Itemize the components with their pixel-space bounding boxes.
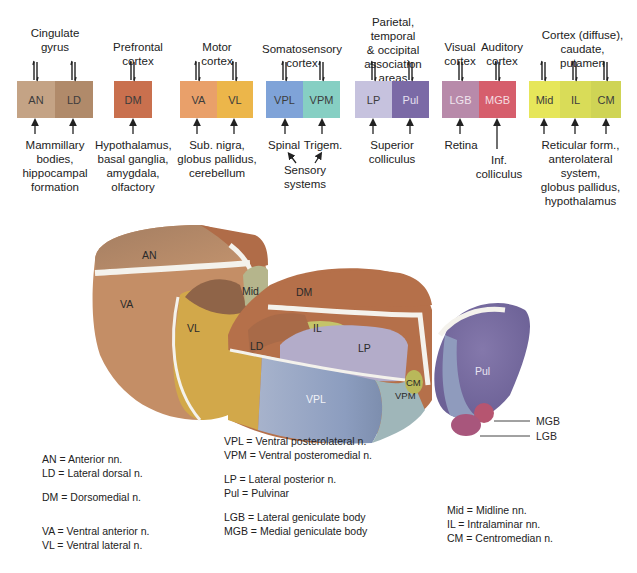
connection-arrows (0, 0, 637, 210)
label-dm: DM (296, 286, 312, 298)
legend-entry: MGB = Medial geniculate body (224, 524, 372, 538)
label-vpm: VPM (395, 390, 416, 401)
label-vl: VL (187, 322, 200, 334)
label-va: VA (120, 298, 133, 310)
thalamus-illustration: AN VA VL Mid DM IL LD LP VPL VPM CM Pul … (0, 215, 637, 445)
region-vl-posterior (228, 350, 262, 430)
bidirectional-arrow-icon (130, 61, 135, 81)
legend-entry: VPM = Ventral posteromedial n. (224, 448, 372, 462)
bidirectional-arrow-icon (572, 61, 577, 81)
label-il: IL (313, 322, 322, 334)
bidirectional-arrow-icon (603, 61, 608, 81)
label-an: AN (142, 249, 157, 261)
legend-column-1: AN = Anterior nn. LD = Lateral dorsal n.… (42, 452, 150, 552)
bidirectional-arrow-icons (33, 61, 608, 81)
bidirectional-arrow-icon (71, 61, 76, 81)
legend-entry: VPL = Ventral posterolateral n. (224, 434, 372, 448)
legend-entry: VL = Ventral lateral n. (42, 538, 150, 552)
bidirectional-arrow-icon (195, 61, 200, 81)
legend-entry: LGB = Lateral geniculate body (224, 510, 372, 524)
bidirectional-arrow-icon (232, 61, 237, 81)
label-lp: LP (358, 342, 371, 354)
label-ld: LD (250, 340, 264, 352)
label-vpl: VPL (306, 393, 326, 405)
input-arrow-icon (315, 155, 320, 163)
bidirectional-arrow-icon (319, 61, 324, 81)
bidirectional-arrow-icon (282, 61, 287, 81)
label-mgb: MGB (536, 415, 560, 427)
bidirectional-arrow-icon (371, 61, 376, 81)
bidirectional-arrow-icon (33, 61, 38, 81)
legend-entry: AN = Anterior nn. (42, 452, 150, 466)
label-lgb: LGB (536, 430, 557, 442)
bidirectional-arrow-icon (408, 61, 413, 81)
bidirectional-arrow-icon (495, 61, 500, 81)
legend-entry: Mid = Midline nn. (447, 503, 553, 517)
legend-entry: DM = Dorsomedial n. (42, 490, 150, 504)
legend-entry: LD = Lateral dorsal n. (42, 466, 150, 480)
label-mid: Mid (242, 285, 259, 297)
legend-entry: VA = Ventral anterior n. (42, 524, 150, 538)
input-arrow-icon (290, 155, 296, 163)
legend-entry: LP = Lateral posterior n. (224, 472, 372, 486)
input-arrow-icons (35, 122, 606, 163)
label-cm: CM (406, 377, 421, 388)
legend-entry: CM = Centromedian n. (447, 531, 553, 545)
legend-entry: IL = Intralaminar nn. (447, 517, 553, 531)
legend-entry: Pul = Pulvinar (224, 486, 372, 500)
legend-column-2: VPL = Ventral posterolateral n. VPM = Ve… (224, 434, 372, 538)
bidirectional-arrow-icon (541, 61, 546, 81)
bidirectional-arrow-icon (458, 61, 463, 81)
legend-column-3: Mid = Midline nn. IL = Intralaminar nn. … (447, 503, 553, 545)
label-pul: Pul (475, 365, 490, 377)
region-lgb (451, 414, 481, 436)
